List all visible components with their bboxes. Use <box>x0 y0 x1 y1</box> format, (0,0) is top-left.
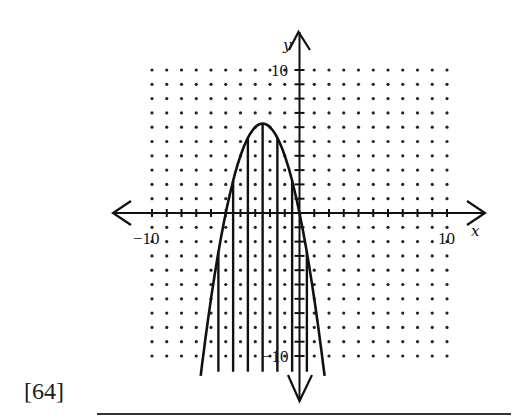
shading-lines <box>218 124 307 372</box>
x-min-label: −10 <box>133 229 160 248</box>
y-min-label: −10 <box>262 347 289 366</box>
y-axis-label: y <box>282 36 292 54</box>
x-max-label: 10 <box>438 229 455 248</box>
graph-figure: y x −10 10 10 −10 <box>0 0 513 420</box>
y-max-label: 10 <box>271 61 288 80</box>
answer-line <box>97 413 511 415</box>
x-axis-label: x <box>471 222 480 240</box>
question-number: [64] <box>24 378 64 405</box>
